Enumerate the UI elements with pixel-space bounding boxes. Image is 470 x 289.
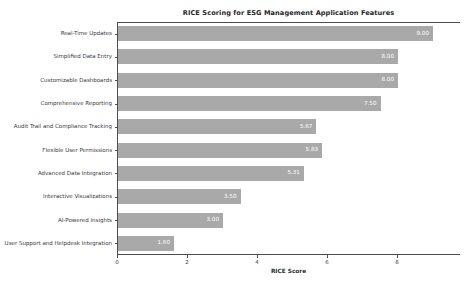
bar-row[interactable]: 3.00 xyxy=(118,213,223,228)
bar-row[interactable]: 9.00 xyxy=(118,26,433,41)
y-axis-tick-label: User Support and Helpdesk Integration xyxy=(5,240,112,247)
y-axis-tick-label: Comprehensive Reporting xyxy=(41,100,112,107)
y-axis-tick-label: Flexible User Permissions xyxy=(42,147,112,154)
bar-value-label: 8.00 xyxy=(382,76,394,82)
bar[interactable] xyxy=(118,143,322,158)
bar-row[interactable]: 7.50 xyxy=(118,96,381,111)
y-axis-tick-label: Advanced Data Integration xyxy=(38,170,112,177)
plot-area: 9.008.008.007.505.675.835.313.503.001.60… xyxy=(117,22,460,255)
bar[interactable] xyxy=(118,166,304,181)
x-axis-tick-mark xyxy=(397,255,398,258)
bar-row[interactable]: 8.00 xyxy=(118,73,398,88)
bar-row[interactable]: 5.67 xyxy=(118,119,316,134)
bar-value-label: 1.60 xyxy=(158,239,170,245)
chart-title: RICE Scoring for ESG Management Applicat… xyxy=(117,9,460,17)
x-axis-tick-label: 0 xyxy=(115,259,118,265)
bar-value-label: 8.00 xyxy=(382,53,394,59)
bar-value-label: 5.83 xyxy=(306,146,318,152)
y-axis-tick-label: Customizable Dashboards xyxy=(40,77,112,84)
y-axis-tick-mark xyxy=(115,104,118,105)
y-axis-tick-label: Simplified Data Entry xyxy=(53,53,112,60)
y-axis-tick-mark xyxy=(115,220,118,221)
bar-row[interactable]: 1.60 xyxy=(118,236,174,251)
x-axis-spine xyxy=(117,254,460,255)
y-axis-tick-label: Interactive Visualizations xyxy=(43,193,112,200)
y-axis-tick-mark xyxy=(115,243,118,244)
x-axis-title: RICE Score xyxy=(117,268,460,274)
y-axis-tick-mark xyxy=(115,127,118,128)
bar-value-label: 5.31 xyxy=(287,169,299,175)
bar-value-label: 3.00 xyxy=(207,216,219,222)
bar-row[interactable]: 8.00 xyxy=(118,49,398,64)
x-axis-tick-mark xyxy=(327,255,328,258)
bar-value-label: 7.50 xyxy=(364,100,376,106)
bar-value-label: 3.50 xyxy=(224,193,236,199)
y-axis-tick-mark xyxy=(115,80,118,81)
bar-row[interactable]: 5.31 xyxy=(118,166,304,181)
bar[interactable] xyxy=(118,96,381,111)
bar-row[interactable]: 3.50 xyxy=(118,189,241,204)
bar[interactable] xyxy=(118,73,398,88)
bar[interactable] xyxy=(118,49,398,64)
bar-row[interactable]: 5.83 xyxy=(118,143,322,158)
y-axis-tick-mark xyxy=(115,173,118,174)
x-axis-tick-mark xyxy=(187,255,188,258)
y-axis-tick-mark xyxy=(115,197,118,198)
bar-value-label: 5.67 xyxy=(300,123,312,129)
x-axis-tick-label: 6 xyxy=(325,259,328,265)
x-axis-tick-label: 2 xyxy=(185,259,188,265)
bar[interactable] xyxy=(118,26,433,41)
y-axis-tick-label: Real-Time Updates xyxy=(61,30,112,37)
bar-value-label: 9.00 xyxy=(417,30,429,36)
bar[interactable] xyxy=(118,119,316,134)
y-axis-tick-mark xyxy=(115,34,118,35)
x-axis-tick-label: 4 xyxy=(255,259,258,265)
y-axis-labels: Real-Time UpdatesSimplified Data EntryCu… xyxy=(0,22,117,255)
bar[interactable] xyxy=(118,189,241,204)
x-axis-tick-mark xyxy=(257,255,258,258)
y-axis-tick-label: Audit Trail and Compliance Tracking xyxy=(14,123,112,130)
top-spine xyxy=(117,22,460,23)
x-axis-tick-mark xyxy=(117,255,118,258)
chart-figure: RICE Scoring for ESG Management Applicat… xyxy=(0,0,470,289)
y-axis-tick-mark xyxy=(115,150,118,151)
y-axis-tick-label: AI-Powered Insights xyxy=(58,217,112,224)
x-axis-tick-label: 8 xyxy=(395,259,398,265)
y-axis-tick-mark xyxy=(115,57,118,58)
